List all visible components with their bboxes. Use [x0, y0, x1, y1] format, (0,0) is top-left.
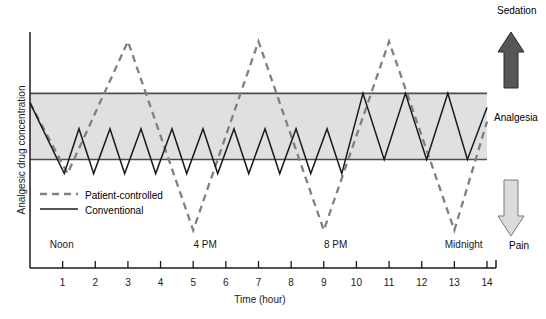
x-tick-label: 9: [311, 278, 337, 288]
x-tick-label: 6: [213, 278, 239, 288]
x-axis-title: Time (hour): [180, 295, 340, 305]
time-of-day-label: 4 PM: [193, 240, 216, 250]
analgesia-label: Analgesia: [494, 112, 538, 123]
analgesic-concentration-chart: Analgesic drug concentration Time (hour)…: [0, 0, 546, 319]
time-of-day-label: Noon: [50, 240, 74, 250]
x-tick-label: 7: [246, 278, 272, 288]
pain-down-arrow-icon: [498, 180, 524, 236]
x-tick-label: 10: [343, 278, 369, 288]
x-tick-label: 14: [474, 278, 500, 288]
x-tick-label: 5: [180, 278, 206, 288]
time-of-day-label: Midnight: [445, 240, 483, 250]
x-tick-label: 8: [278, 278, 304, 288]
x-tick-label: 4: [148, 278, 174, 288]
legend-label-conventional: Conventional: [85, 205, 143, 216]
x-tick-label: 1: [50, 278, 76, 288]
sedation-label: Sedation: [497, 5, 536, 16]
sedation-up-arrow-icon: [498, 32, 524, 88]
x-tick-label: 13: [441, 278, 467, 288]
legend-label-patient-controlled: Patient-controlled: [85, 190, 163, 201]
pain-label: Pain: [509, 240, 529, 251]
x-tick-label: 2: [82, 278, 108, 288]
x-tick-label: 12: [409, 278, 435, 288]
x-axis-ticks: [63, 261, 487, 268]
time-of-day-label: 8 PM: [324, 240, 347, 250]
x-tick-label: 11: [376, 278, 402, 288]
y-axis-title: Analgesic drug concentration: [17, 75, 27, 225]
chart-canvas: [0, 0, 546, 319]
x-tick-label: 3: [115, 278, 141, 288]
